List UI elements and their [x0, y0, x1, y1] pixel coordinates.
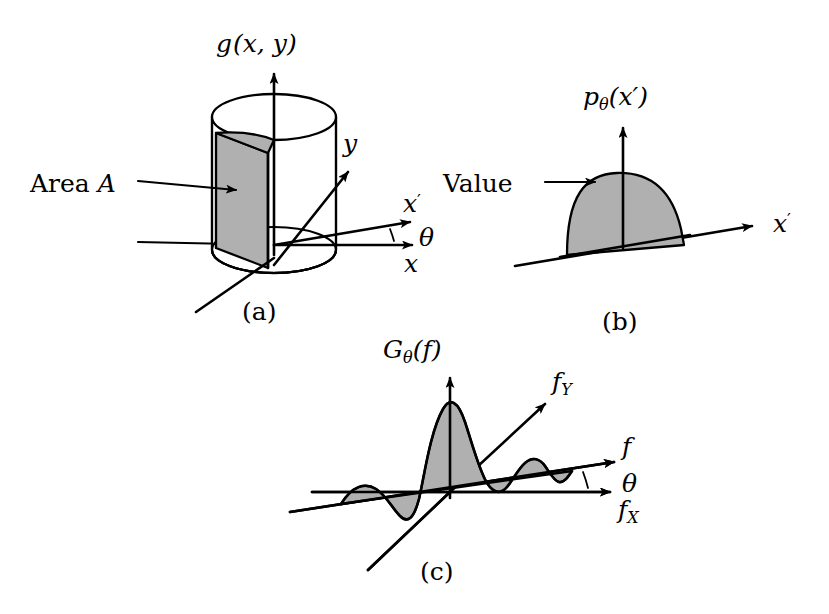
panel-a-label-area: AreaA	[29, 169, 116, 198]
panel-a: g(x, y) AreaA y x′ x θ (a)	[29, 29, 434, 326]
panel-c-theta-arc	[583, 472, 588, 488]
panel-c-label-f: f	[620, 432, 635, 461]
panel-c-caption: (c)	[420, 557, 454, 586]
panel-a-label-y: y	[342, 129, 358, 158]
panel-a-label-g: g(x, y)	[216, 29, 297, 58]
panel-b-label-x-prime: x′	[773, 209, 791, 238]
panel-b-label-p-theta: pθ(x′)	[583, 82, 648, 114]
panel-b: pθ(x′) Value x′ (b)	[442, 82, 791, 336]
panel-c: Gθ(f) fY f θ fX (c)	[290, 335, 639, 586]
panel-b-label-value: Value	[442, 169, 513, 198]
panel-a-area-slab-front-face	[216, 133, 268, 268]
panel-c-label-G-theta: Gθ(f)	[383, 335, 441, 367]
panel-b-projection-hump	[567, 173, 684, 255]
panel-a-label-x: x	[404, 249, 418, 278]
figure-root: g(x, y) AreaA y x′ x θ (a) pθ(x′) Value …	[0, 0, 829, 614]
figure-canvas: g(x, y) AreaA y x′ x θ (a) pθ(x′) Value …	[0, 0, 829, 614]
panel-c-label-theta: θ	[622, 469, 637, 498]
panel-a-label-theta: θ	[419, 223, 434, 252]
panel-a-caption: (a)	[242, 297, 276, 326]
panel-c-label-fX: fX	[616, 495, 639, 527]
panel-b-caption: (b)	[602, 307, 638, 336]
panel-a-label-x-prime: x′	[403, 189, 421, 218]
panel-c-label-fY: fY	[550, 367, 573, 399]
panel-a-theta-arc	[390, 229, 394, 241]
